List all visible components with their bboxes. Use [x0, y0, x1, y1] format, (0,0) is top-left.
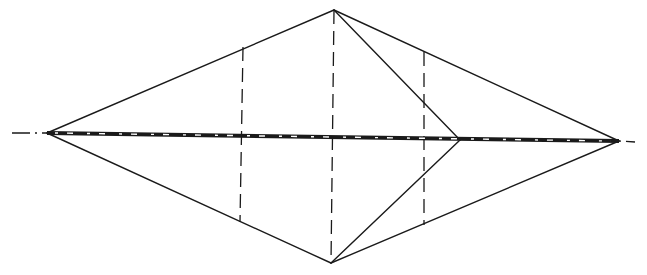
- right-lower-edge: [331, 141, 619, 263]
- center-axis-group: [12, 133, 635, 142]
- diagram-canvas: [0, 0, 647, 275]
- diamond-sketch: [0, 0, 647, 275]
- right-upper-edge: [334, 10, 619, 141]
- inner-upper-edge: [334, 10, 460, 140]
- axis-extension-right: [619, 141, 635, 142]
- left-upper-edge: [47, 10, 334, 133]
- left-lower-edge: [47, 133, 331, 263]
- inner-lower-edge: [331, 140, 460, 263]
